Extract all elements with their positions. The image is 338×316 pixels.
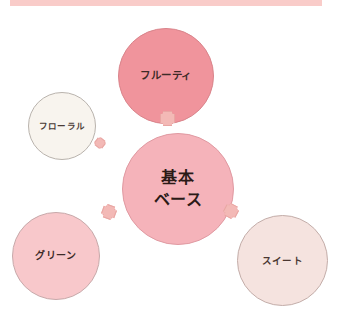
node-green[interactable]: グリーン	[12, 212, 100, 300]
top-accent-bar	[10, 0, 322, 6]
plus-icon-top	[162, 113, 173, 124]
plus-icon-green	[103, 206, 116, 219]
plus-icon-sweet	[224, 204, 238, 218]
node-green-label: グリーン	[35, 250, 77, 263]
diagram-canvas: フルーティ フローラル 基本 ベース グリーン スイート	[0, 0, 338, 316]
plus-icon-floral	[94, 137, 105, 148]
node-sweet[interactable]: スイート	[237, 215, 328, 306]
node-fruity-label: フルーティ	[140, 69, 191, 82]
node-base-center[interactable]: 基本 ベース	[122, 133, 234, 245]
node-floral[interactable]: フローラル	[28, 92, 96, 160]
node-floral-label: フローラル	[39, 121, 86, 132]
node-fruity[interactable]: フルーティ	[118, 28, 214, 124]
node-base-label: 基本 ベース	[154, 167, 203, 210]
node-sweet-label: スイート	[262, 255, 304, 267]
